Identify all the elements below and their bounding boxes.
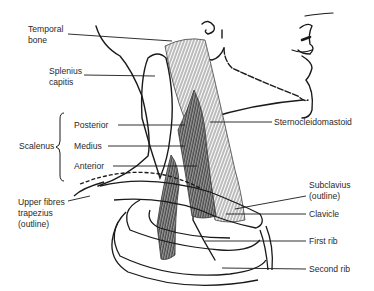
label-scalenus-posterior: Posterior <box>74 120 108 130</box>
label-temporal-bone-line1: Temporal <box>28 24 63 34</box>
label-subclavius-line2: (outline) <box>309 191 340 201</box>
label-upper-fibres-trapezius-line1: Upper fibres <box>18 197 65 207</box>
label-sternocleidomastoid: Sternocleidomastoid <box>274 117 352 127</box>
label-scalenus-medius: Medius <box>74 141 102 151</box>
label-second-rib: Second rib <box>309 264 350 274</box>
label-scalenus-anterior: Anterior <box>74 161 104 171</box>
label-upper-fibres-trapezius-line3: (outline) <box>18 219 49 229</box>
label-upper-fibres-trapezius-line2: trapezius <box>18 208 53 218</box>
label-first-rib: First rib <box>309 236 338 246</box>
label-temporal-bone-line2: bone <box>28 35 47 45</box>
label-splenius-capitis-line1: Splenius <box>49 66 82 76</box>
label-splenius-capitis-line2: capitis <box>49 77 73 87</box>
anatomy-illustration <box>0 0 374 291</box>
label-clavicle: Clavicle <box>309 209 339 219</box>
label-scalenus: Scalenus <box>19 141 54 151</box>
label-subclavius-line1: Subclavius <box>309 180 351 190</box>
neck-muscle-diagram: Temporal bone Splenius capitis Scalenus … <box>0 0 374 291</box>
